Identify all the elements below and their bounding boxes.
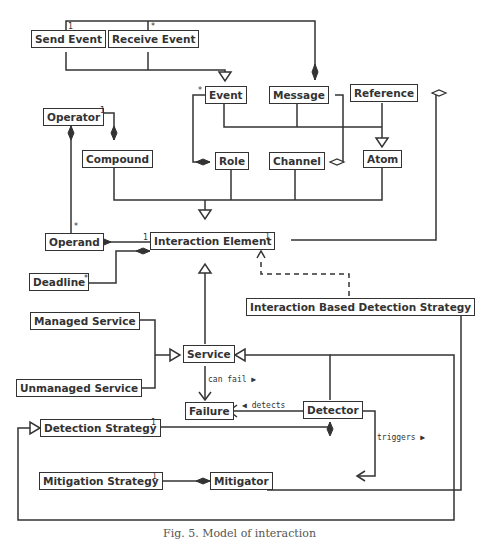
class-event: Event (205, 86, 247, 104)
class-compound: Compound (82, 150, 153, 168)
class-interaction-element: Interaction Element (150, 232, 275, 250)
class-failure: Failure (185, 402, 234, 420)
class-service: Service (183, 345, 235, 363)
class-mitigator: Mitigator (210, 472, 273, 490)
class-interaction-based-detection-strategy: Interaction Based Detection Strategy (246, 298, 475, 316)
class-detector: Detector (303, 401, 363, 419)
mult-send-event: 1 (68, 22, 73, 31)
mult-ie-reference: 1 (265, 232, 270, 241)
class-message: Message (269, 86, 329, 104)
mult-operand-ie: 1 (143, 233, 148, 242)
assoc-can-fail: can fail ▶ (208, 375, 256, 384)
class-mitigation-strategy: Mitigation Strategy (39, 472, 163, 490)
assoc-detects: ◀ detects (242, 401, 285, 410)
class-managed-service: Managed Service (30, 312, 140, 330)
mult-receive-event: * (151, 22, 155, 31)
mult-deadline: * (84, 274, 88, 283)
mult-operator-operand: * (74, 222, 78, 231)
figure-caption: Fig. 5. Model of interaction (0, 527, 479, 540)
diagram-connectors (0, 0, 479, 542)
class-atom: Atom (363, 150, 402, 168)
class-role: Role (215, 152, 249, 170)
class-channel: Channel (269, 152, 325, 170)
mult-operator-compound: 1 (100, 106, 105, 115)
class-receive-event: Receive Event (108, 30, 199, 48)
class-reference: Reference (350, 84, 418, 102)
class-deadline: Deadline (29, 273, 89, 291)
class-operand: Operand (45, 233, 104, 251)
mult-mitigation-strategy: 1 (152, 472, 157, 481)
class-send-event: Send Event (31, 30, 106, 48)
class-unmanaged-service: Unmanaged Service (16, 379, 142, 397)
class-detection-strategy: Detection Strategy (40, 419, 161, 437)
mult-event-role: * (198, 86, 202, 95)
class-operator: Operator (43, 108, 104, 126)
mult-detection-strategy: 1 (151, 418, 156, 427)
assoc-triggers: triggers ▶ (377, 433, 425, 442)
